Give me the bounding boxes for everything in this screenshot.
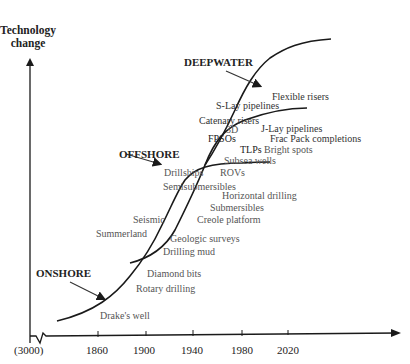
x-tick-1860: 1860 (86, 344, 108, 356)
tech-semisubmersibles: Semisubmersibles (163, 181, 236, 192)
x-tick-3000: (3000) (14, 344, 43, 356)
y-axis-arrow-icon (26, 58, 34, 66)
y-axis-title-line2: change (0, 37, 56, 50)
y-axis-title-line1: Technology (0, 24, 56, 37)
era-label-offshore: OFFSHORE (119, 149, 180, 160)
tech-seismic: Seismic (133, 214, 165, 225)
tech-subsea-wells: Subsea wells (224, 155, 276, 166)
tech-frac-pack-completions: Frac Pack completions (270, 133, 361, 144)
technology-s-curve-diagram: Technology change (3000) 1860 1900 1940 … (0, 0, 410, 364)
tech-drilling-mud: Drilling mud (163, 246, 215, 257)
tech-drillships: Drillships (164, 167, 203, 178)
tech-flexible-risers: Flexible risers (272, 91, 329, 102)
x-axis-arrow-icon (391, 329, 401, 337)
tech-diamond-bits: Diamond bits (147, 268, 201, 279)
tech-s-lay-pipelines: S-Lay pipelines (216, 100, 279, 111)
y-axis-title: Technology change (0, 24, 56, 50)
era-label-deepwater: DEEPWATER (184, 57, 253, 68)
tech-creole-platform: Creole platform (197, 214, 261, 225)
tech-summerland: Summerland (96, 228, 147, 239)
tech-tlps: TLPs (240, 144, 262, 155)
tech-drakes-well: Drake's well (100, 310, 150, 321)
era-label-onshore: ONSHORE (36, 268, 91, 279)
x-tick-1980: 1980 (231, 344, 253, 356)
tech-submersibles: Submersibles (210, 202, 264, 213)
tech-bright-spots: Bright spots (264, 144, 313, 155)
tech-rovs: ROVs (220, 167, 245, 178)
x-tick-2020: 2020 (277, 344, 299, 356)
tech-catenary-risers: Catenary risers (199, 115, 259, 126)
tech-rotary-drilling: Rotary drilling (136, 283, 195, 294)
onshore-arrow-icon (70, 282, 104, 299)
x-axis (30, 333, 398, 343)
tech-geologic-surveys: Geologic surveys (170, 233, 240, 244)
x-tick-1940: 1940 (181, 344, 203, 356)
x-tick-1900: 1900 (133, 344, 155, 356)
